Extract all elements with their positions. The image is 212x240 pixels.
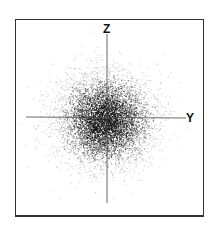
y-axis — [26, 117, 186, 118]
y-axis-label: Y — [186, 112, 194, 124]
point-cloud — [18, 32, 189, 200]
z-axis-label: Z — [103, 23, 110, 35]
x-axis-label: X — [92, 124, 99, 135]
